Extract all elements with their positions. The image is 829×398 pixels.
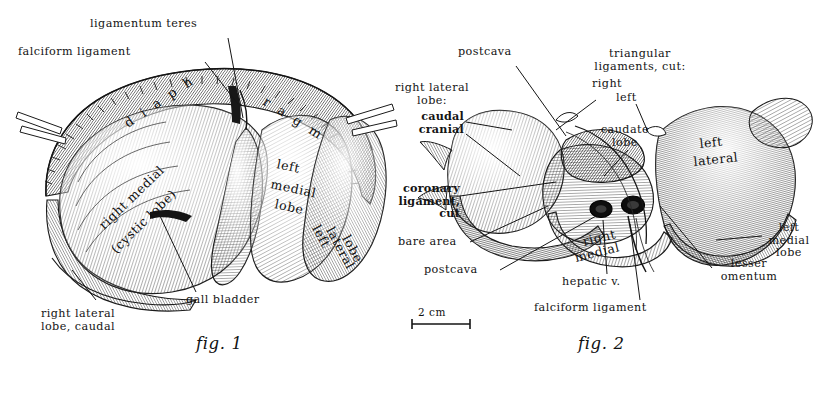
fig2-label-left-medial-lobe: left medial lobe — [756, 222, 822, 260]
fig1-caption: fig. 1 — [196, 334, 243, 353]
fig1-label-right-lateral-lobe-caudal: right lateral lobe, caudal — [18, 308, 138, 333]
scale-bar-art — [412, 319, 470, 329]
fig2-right-lateral-caudal — [420, 141, 452, 170]
fig2-label-falciform-ligament: falciform ligament — [534, 302, 647, 315]
fig1-label-gall-bladder: gall bladder — [186, 294, 260, 307]
fig2-label-triangular-ligaments-heading: triangular ligaments, cut: — [570, 48, 710, 73]
fig2-label-postcava-bottom: postcava — [424, 264, 478, 277]
anatomical-plate: d i a p h r a g m right medial (cystic l… — [0, 0, 829, 398]
fig1-label-ligamentum-teres: ligamentum teres — [90, 18, 197, 31]
fig2-label-hepatic-v: hepatic v. — [562, 276, 621, 289]
fig1-label-falciform-ligament: falciform ligament — [18, 46, 131, 59]
fig2-label-left-lateral-1: left — [699, 134, 723, 151]
fig2-label-triangular-right: right — [592, 78, 622, 91]
fig2-label-lesser-omentum: lesser omentum — [706, 258, 792, 283]
scale-bar-label: 2 cm — [418, 306, 446, 318]
fig2-label-caudate-lobe: caudate lobe — [586, 124, 664, 149]
fig2-label-right-lateral-cranial: cranial — [386, 123, 464, 136]
fig2-label-right-lateral-lobe-heading: right lateral lobe: — [386, 82, 478, 107]
fig2-label-bare-area: bare area — [398, 236, 457, 249]
fig2-label-coronary-ligament-cut: coronary ligament, cut — [378, 182, 460, 220]
fig2-label-postcava-top: postcava — [458, 46, 512, 59]
fig2-left-lateral-horn — [749, 98, 812, 147]
fig2-label-triangular-left: left — [616, 92, 637, 105]
fig2-label-right-lateral-caudal: caudal — [386, 110, 464, 123]
fig1-artwork: d i a p h r a g m right medial (cystic l… — [16, 38, 397, 311]
fig2-caption: fig. 2 — [578, 334, 625, 353]
